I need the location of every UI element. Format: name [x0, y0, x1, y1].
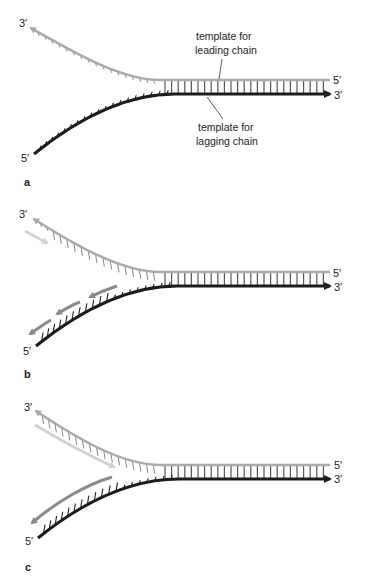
lagging-template-strand — [34, 94, 330, 154]
callout-leading-line2: leading chain — [195, 44, 257, 56]
panel-b: 3′ 5′ 3′ 5′ b — [19, 208, 342, 380]
panel-label-c: c — [25, 561, 31, 573]
panel-label-b: b — [24, 368, 31, 380]
label-5-prime-bottom: 5′ — [25, 535, 33, 547]
leading-template-strand — [34, 219, 330, 272]
label-5-prime-bottom: 5′ — [23, 345, 31, 357]
replication-fork-figure: 3′ 5′ 3′ 5′ template for leading chain t… — [0, 0, 367, 582]
panel-label-a: a — [24, 176, 31, 188]
leading-template-strand — [31, 28, 330, 80]
label-5-prime-right: 5′ — [333, 267, 341, 279]
base-pair-rungs — [40, 223, 323, 342]
base-pair-rungs — [38, 32, 324, 150]
callout-line-leading — [219, 59, 222, 79]
new-leading-strand — [25, 231, 47, 243]
new-leading-strand — [35, 425, 114, 467]
label-3-prime-right: 3′ — [334, 281, 342, 293]
okazaki-fragment — [90, 286, 117, 297]
leading-template-strand — [36, 411, 330, 465]
label-3-prime-right: 3′ — [334, 473, 342, 485]
panel-a: 3′ 5′ 3′ 5′ template for leading chain t… — [19, 17, 342, 188]
label-3-prime-top: 3′ — [19, 17, 27, 29]
base-pair-rungs — [42, 415, 323, 534]
callout-lagging-line2: lagging chain — [196, 135, 258, 147]
lagging-template-strand — [36, 286, 330, 346]
label-5-prime-right: 5′ — [334, 459, 342, 471]
new-lagging-strand — [32, 477, 112, 523]
callout-lagging-line1: template for — [198, 121, 254, 133]
label-5-prime-bottom: 5′ — [21, 152, 29, 164]
label-3-prime-top: 3′ — [24, 401, 32, 413]
callout-line-lagging — [207, 97, 223, 119]
label-3-prime-top: 3′ — [19, 208, 27, 220]
callout-leading-line1: template for — [196, 30, 252, 42]
panel-c: 3′ 5′ 3′ 5′ c — [24, 401, 342, 573]
label-5-prime-right: 5′ — [333, 74, 341, 86]
okazaki-fragment — [57, 302, 80, 314]
label-3-prime-right: 3′ — [334, 89, 342, 101]
